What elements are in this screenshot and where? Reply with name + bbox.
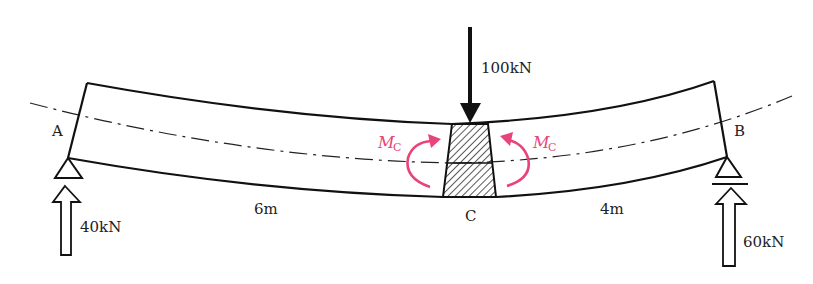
support-a-label: A <box>51 122 63 140</box>
reaction-b-value: 60kN <box>743 233 784 251</box>
svg-text:C: C <box>393 141 401 154</box>
load-arrow-icon <box>460 27 481 123</box>
beam-bottom-edge <box>68 157 727 197</box>
span-ac-length: 6m <box>254 200 278 218</box>
beam-diagram: A B 40kN 60kN 100kN 6m 4m C M C M C <box>0 0 813 284</box>
span-cb-length: 4m <box>600 200 624 218</box>
section-c <box>443 124 496 197</box>
reaction-arrow-b-icon <box>716 188 746 266</box>
moment-left-label: M C <box>377 133 401 154</box>
beam-top-edge <box>87 81 714 124</box>
beam-right-end <box>714 81 727 157</box>
pin-support-a <box>55 158 82 178</box>
moment-right-icon <box>500 132 529 186</box>
moment-right-label: M C <box>532 133 556 154</box>
support-b-label: B <box>734 122 745 140</box>
section-c-label: C <box>465 207 476 225</box>
beam-left-end <box>68 83 87 158</box>
reaction-a-value: 40kN <box>80 218 121 236</box>
reaction-arrow-a-icon <box>53 186 80 255</box>
svg-text:C: C <box>548 141 556 154</box>
moment-left-icon <box>407 134 441 187</box>
load-value: 100kN <box>481 59 532 77</box>
